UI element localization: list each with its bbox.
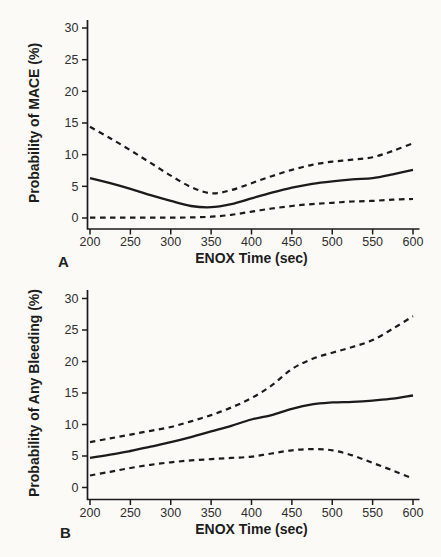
y-tick-label: 25 xyxy=(65,323,79,337)
y-tick-label: 15 xyxy=(65,116,79,130)
x-tick-label: 450 xyxy=(281,235,302,249)
x-tick-label: 350 xyxy=(201,506,222,520)
y-tick-label: 5 xyxy=(72,180,79,194)
two-panel-line-figure: 200250300350400450500550600051015202530E… xyxy=(0,0,441,557)
x-tick-label: 500 xyxy=(322,235,343,249)
x-tick-label: 200 xyxy=(80,506,101,520)
axes-spines xyxy=(88,290,420,500)
y-tick-label: 5 xyxy=(72,449,79,463)
y-axis-title: Probability of MACE (%) xyxy=(26,43,42,203)
y-tick-label: 30 xyxy=(65,21,79,35)
mace-and-bleeding-probability-charts: 200250300350400450500550600051015202530E… xyxy=(0,0,441,557)
x-tick-label: 400 xyxy=(241,235,262,249)
panel-label-a: A xyxy=(58,253,69,270)
x-tick-label: 250 xyxy=(120,235,141,249)
y-tick-label: 10 xyxy=(65,148,79,162)
x-tick-label: 250 xyxy=(120,506,141,520)
x-tick-label: 600 xyxy=(403,506,424,520)
x-tick-label: 350 xyxy=(201,235,222,249)
x-tick-label: 450 xyxy=(281,506,302,520)
panel-label-b: B xyxy=(60,524,71,541)
y-tick-label: 30 xyxy=(65,292,79,306)
y-tick-label: 0 xyxy=(72,481,79,495)
curve-upper-confidence-band xyxy=(90,127,413,194)
curve-lower-confidence-band xyxy=(90,449,413,479)
y-tick-label: 20 xyxy=(65,355,79,369)
y-tick-label: 20 xyxy=(65,85,79,99)
curve-lower-confidence-band xyxy=(90,199,413,218)
x-axis-title: ENOX Time (sec) xyxy=(195,521,308,537)
curve-predicted-probability xyxy=(90,396,413,458)
y-axis-title: Probability of Any Bleeding (%) xyxy=(26,289,42,497)
x-tick-label: 550 xyxy=(362,506,383,520)
x-tick-label: 300 xyxy=(160,506,181,520)
x-tick-label: 300 xyxy=(160,235,181,249)
x-tick-label: 200 xyxy=(80,235,101,249)
curve-upper-confidence-band xyxy=(90,316,413,442)
x-tick-label: 600 xyxy=(403,235,424,249)
y-tick-label: 25 xyxy=(65,53,79,67)
y-tick-label: 15 xyxy=(65,386,79,400)
x-axis-title: ENOX Time (sec) xyxy=(195,250,308,266)
panel-a: 200250300350400450500550600051015202530E… xyxy=(26,20,423,266)
y-tick-label: 10 xyxy=(65,418,79,432)
panel-b: 200250300350400450500550600051015202530E… xyxy=(26,289,423,537)
x-tick-label: 550 xyxy=(362,235,383,249)
x-tick-label: 400 xyxy=(241,506,262,520)
y-tick-label: 0 xyxy=(72,211,79,225)
x-tick-label: 500 xyxy=(322,506,343,520)
